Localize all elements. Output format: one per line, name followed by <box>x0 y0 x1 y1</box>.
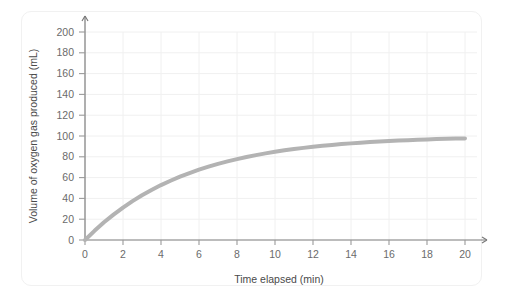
x-axis-tick-labels: 02468101214161820 <box>82 248 471 260</box>
axis-lines <box>82 16 487 243</box>
x-tick-label: 10 <box>269 248 281 260</box>
chart-figure: 02468101214161820 0204060801001201401601… <box>0 0 506 299</box>
y-tick-label: 140 <box>56 88 74 100</box>
x-tick-label: 0 <box>82 248 88 260</box>
x-tick-label: 16 <box>383 248 395 260</box>
x-tick-label: 2 <box>120 248 126 260</box>
y-tick-label: 160 <box>56 67 74 79</box>
y-tick-label: 80 <box>62 150 74 162</box>
grid-lines <box>85 32 477 240</box>
y-tick-label: 40 <box>62 192 74 204</box>
x-tick-label: 20 <box>459 248 471 260</box>
y-axis-title: Volume of oxygen gas produced (mL) <box>27 49 39 224</box>
y-axis-tick-labels: 020406080100120140160180200 <box>56 26 74 246</box>
x-tick-label: 14 <box>345 248 357 260</box>
y-tick-label: 0 <box>68 234 74 246</box>
y-tick-label: 200 <box>56 26 74 38</box>
y-tick-label: 120 <box>56 109 74 121</box>
x-axis-title: Time elapsed (min) <box>234 273 323 285</box>
y-tick-label: 60 <box>62 171 74 183</box>
oxygen-volume-line-chart: 02468101214161820 0204060801001201401601… <box>0 0 506 299</box>
x-tick-label: 8 <box>234 248 240 260</box>
y-tick-label: 180 <box>56 46 74 58</box>
x-tick-label: 6 <box>196 248 202 260</box>
y-tick-label: 20 <box>62 213 74 225</box>
x-tick-label: 18 <box>421 248 433 260</box>
x-tick-label: 4 <box>158 248 164 260</box>
x-tick-label: 12 <box>307 248 319 260</box>
y-tick-label: 100 <box>56 130 74 142</box>
